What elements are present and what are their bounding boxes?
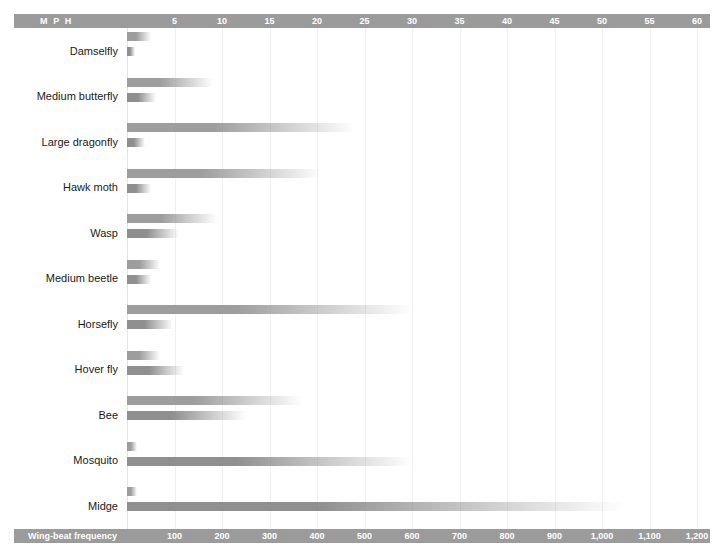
- top-axis-tick-label: 40: [502, 14, 512, 28]
- bottom-axis-tick-label: 900: [547, 529, 562, 543]
- top-axis-tick-label: 5: [172, 14, 177, 28]
- category-label: Mosquito: [0, 454, 118, 467]
- bottom-axis-tick-label: 200: [214, 529, 229, 543]
- chart-row: Large dragonfly: [0, 119, 724, 165]
- chart-row: Horsefly: [0, 301, 724, 347]
- category-label: Midge: [0, 499, 118, 512]
- bottom-axis-tick-label: 1,200: [686, 529, 709, 543]
- bar-wingbeat: [127, 184, 151, 193]
- bar-wingbeat: [127, 457, 412, 466]
- top-axis-title: M P H: [40, 14, 73, 28]
- bar-mph: [127, 351, 160, 360]
- bar-mph: [127, 487, 137, 496]
- bar-wingbeat: [127, 275, 151, 284]
- insect-speed-chart: M P H 5 10 15 20 25 30 35 40 45 50 55 60…: [0, 0, 724, 554]
- chart-row: Damselfly: [0, 28, 724, 74]
- bar-mph: [127, 305, 412, 314]
- top-axis-tick-label: 15: [264, 14, 274, 28]
- bar-wingbeat: [127, 229, 179, 238]
- chart-row: Medium butterfly: [0, 74, 724, 120]
- chart-row: Midge: [0, 483, 724, 529]
- category-label: Wasp: [0, 226, 118, 239]
- top-axis-tick-label: 45: [549, 14, 559, 28]
- category-label: Medium butterfly: [0, 90, 118, 103]
- chart-row: Bee: [0, 392, 724, 438]
- top-axis-tick-label: 30: [407, 14, 417, 28]
- bottom-axis-title: Wing-beat frequency: [28, 529, 117, 543]
- plot-area: DamselflyMedium butterflyLarge dragonfly…: [0, 28, 724, 529]
- top-axis-bar: M P H 5 10 15 20 25 30 35 40 45 50 55 60: [14, 14, 710, 28]
- category-label: Hover fly: [0, 363, 118, 376]
- chart-row: Hover fly: [0, 347, 724, 393]
- top-axis-tick-label: 20: [312, 14, 322, 28]
- bottom-axis-tick-label: 100: [167, 529, 182, 543]
- bottom-axis-tick-label: 600: [404, 529, 419, 543]
- bottom-axis-tick-label: 1,000: [591, 529, 614, 543]
- chart-row: Medium beetle: [0, 256, 724, 302]
- top-axis-tick-label: 25: [359, 14, 369, 28]
- bar-wingbeat: [127, 366, 184, 375]
- bar-mph: [127, 169, 322, 178]
- category-label: Medium beetle: [0, 272, 118, 285]
- chart-row: Hawk moth: [0, 165, 724, 211]
- bar-wingbeat: [127, 411, 246, 420]
- chart-row: Mosquito: [0, 438, 724, 484]
- bottom-axis-tick-label: 800: [499, 529, 514, 543]
- bar-mph: [127, 78, 213, 87]
- bar-wingbeat: [127, 47, 135, 56]
- bar-mph: [127, 396, 303, 405]
- bar-mph: [127, 442, 137, 451]
- bottom-axis-tick-label: 1,100: [638, 529, 661, 543]
- bottom-axis-tick-label: 500: [357, 529, 372, 543]
- bar-wingbeat: [127, 502, 624, 511]
- bar-mph: [127, 32, 151, 41]
- top-axis-tick-label: 35: [454, 14, 464, 28]
- top-axis-tick-label: 10: [217, 14, 227, 28]
- bar-wingbeat: [127, 138, 145, 147]
- chart-row: Wasp: [0, 210, 724, 256]
- category-label: Large dragonfly: [0, 135, 118, 148]
- bottom-axis-bar: Wing-beat frequency 100 200 300 400 500 …: [14, 529, 710, 543]
- bar-mph: [127, 214, 217, 223]
- bar-wingbeat: [127, 93, 156, 102]
- category-label: Damselfly: [0, 44, 118, 57]
- category-label: Bee: [0, 408, 118, 421]
- bar-mph: [127, 260, 160, 269]
- top-axis-tick-label: 55: [644, 14, 654, 28]
- category-label: Hawk moth: [0, 181, 118, 194]
- bar-mph: [127, 123, 355, 132]
- bottom-axis-tick-label: 700: [452, 529, 467, 543]
- top-axis-tick-label: 60: [692, 14, 702, 28]
- bar-wingbeat: [127, 320, 173, 329]
- bottom-axis-tick-label: 300: [262, 529, 277, 543]
- category-label: Horsefly: [0, 317, 118, 330]
- top-axis-tick-label: 50: [597, 14, 607, 28]
- bottom-axis-tick-label: 400: [309, 529, 324, 543]
